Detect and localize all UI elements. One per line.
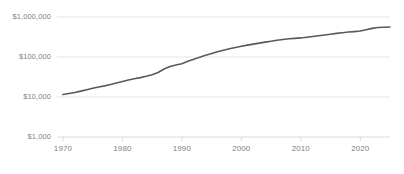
series-line-value: [63, 27, 390, 95]
line-chart: $1,000,000$100,000$10,000$1,000 19701980…: [0, 0, 404, 174]
x-tick-marks: [63, 137, 360, 141]
x-axis-tick-label: 1970: [43, 144, 83, 153]
x-axis-tick-label: 1980: [102, 144, 142, 153]
y-axis-tick-label: $10,000: [23, 92, 51, 101]
y-axis-tick-label: $1,000,000: [12, 12, 51, 21]
x-axis-tick-label: 2000: [221, 144, 261, 153]
x-axis-tick-label: 2020: [340, 144, 380, 153]
x-axis-tick-label: 1990: [162, 144, 202, 153]
x-axis-tick-label: 2010: [281, 144, 321, 153]
gridlines: [57, 17, 390, 137]
y-axis-tick-label: $100,000: [19, 52, 51, 61]
y-axis-tick-label: $1,000: [27, 132, 51, 141]
